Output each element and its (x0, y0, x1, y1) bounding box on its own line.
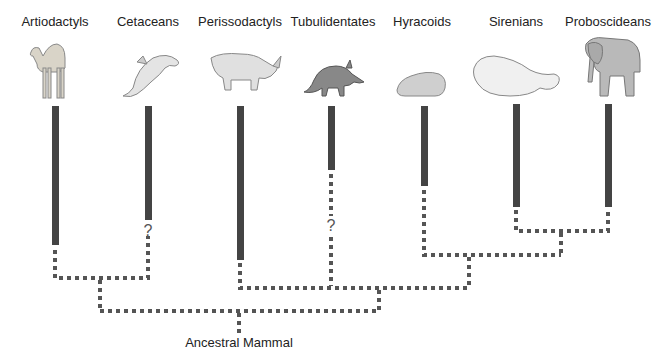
uncertain-marker-tubulidentates: ? (327, 217, 336, 235)
root-label-ancestral-mammal: Ancestral Mammal (185, 335, 293, 350)
uncertain-marker-cetaceans: ? (144, 222, 153, 240)
phylogeny-dashed-lines (0, 0, 670, 363)
